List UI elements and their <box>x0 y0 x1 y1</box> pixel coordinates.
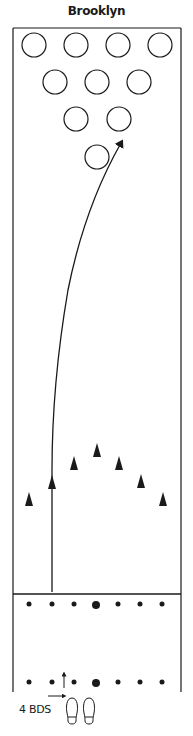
locator-dot <box>27 602 32 607</box>
pin-4 <box>43 70 67 94</box>
ball-path-arrow <box>52 143 121 592</box>
right-shoe-icon <box>84 698 95 724</box>
center-locator-dot <box>92 601 100 609</box>
target-arrow-icon <box>70 456 78 470</box>
left-shoe-icon <box>67 698 78 724</box>
footprints-icon <box>67 698 95 724</box>
approach-dot <box>27 680 32 685</box>
pin-8 <box>64 33 88 57</box>
pin-deck <box>22 33 172 169</box>
target-arrows <box>25 443 167 506</box>
lane-diagram <box>0 0 193 736</box>
target-arrow-icon <box>25 492 33 506</box>
center-approach-dot <box>92 679 100 687</box>
approach-dot <box>138 680 143 685</box>
locator-dot <box>116 602 121 607</box>
pin-1 <box>85 145 109 169</box>
locator-dot <box>50 602 55 607</box>
pin-3 <box>107 107 131 131</box>
pin-10 <box>148 33 172 57</box>
approach-dots <box>27 679 165 687</box>
locator-dot <box>160 602 165 607</box>
foul-line-dots <box>27 601 165 609</box>
target-arrow-icon <box>137 474 145 488</box>
pin-5 <box>85 70 109 94</box>
pin-6 <box>127 70 151 94</box>
target-arrow-icon <box>48 475 56 489</box>
pin-2 <box>64 107 88 131</box>
pin-9 <box>106 33 130 57</box>
approach-dot <box>72 680 77 685</box>
target-arrow-icon <box>93 443 101 457</box>
lane-outline <box>13 28 181 692</box>
approach-dot <box>160 680 165 685</box>
pin-7 <box>22 33 46 57</box>
approach-dot <box>116 680 121 685</box>
boards-offset-label: 4 BDS <box>19 703 51 716</box>
locator-dot <box>72 602 77 607</box>
target-arrow-icon <box>115 456 123 470</box>
approach-dot <box>50 680 55 685</box>
target-arrow-icon <box>159 492 167 506</box>
locator-dot <box>138 602 143 607</box>
